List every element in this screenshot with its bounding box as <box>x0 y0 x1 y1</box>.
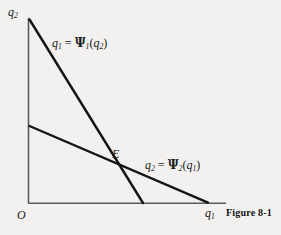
origin-label: O <box>17 209 26 221</box>
y-axis-label: q2 <box>8 6 18 19</box>
figure-plot-area <box>0 0 281 235</box>
figure-container: q2 q1 O q1 = Ψ1(q2) q2 = Ψ2(q1) E Figure… <box>0 0 281 235</box>
psi-glyph: Ψ <box>75 36 86 50</box>
psi-glyph: Ψ <box>168 158 179 172</box>
reaction-curve-2-label: q2 = Ψ2(q1) <box>145 159 200 172</box>
reaction-curve-1-label: q1 = Ψ1(q2) <box>52 37 107 50</box>
equilibrium-point-label: E <box>112 148 119 160</box>
figure-caption: Figure 8-1 <box>226 207 272 218</box>
x-axis-label: q1 <box>205 207 215 220</box>
